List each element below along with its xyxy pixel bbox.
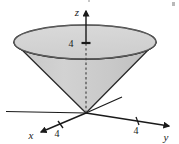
- x-axis-label: x: [28, 129, 34, 141]
- cone-diagram-canvas: z x y 4 4 4: [0, 0, 179, 144]
- x-axis-line: [41, 113, 86, 132]
- negative-axis-extensions: [6, 97, 122, 113]
- y-axis-tick-label-4: 4: [134, 125, 139, 136]
- y-axis-line: [86, 113, 169, 126]
- x-axis-group: [41, 113, 86, 132]
- z-axis-label: z: [74, 6, 80, 18]
- cone-diagram-figure: z x y 4 4 4: [0, 0, 179, 144]
- scan-speck-top-right-icon: [172, 2, 175, 6]
- z-axis-tick-label-4: 4: [69, 38, 74, 49]
- y-axis-label: y: [163, 131, 169, 143]
- y-axis-group: [86, 113, 169, 126]
- y-axis-negative-segment: [6, 112, 86, 114]
- x-axis-tick-label-4: 4: [55, 128, 60, 139]
- scan-speck-top-middle-icon: [88, 0, 90, 2]
